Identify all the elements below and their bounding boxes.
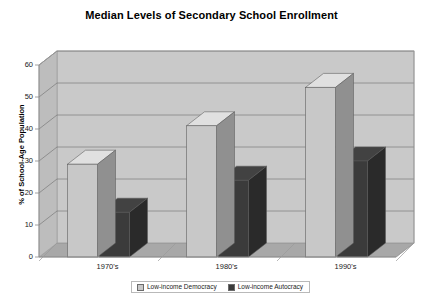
- legend-item-label: Low-income Democracy: [147, 283, 217, 291]
- chart-legend: Low-income DemocracyLow-income Autocracy: [131, 281, 310, 293]
- y-tick-label: 0: [11, 253, 33, 261]
- bar-1970s-democracy-front-face: [68, 164, 98, 257]
- bar-1970s-democracy-side-face: [98, 150, 116, 257]
- x-tick-label: 1970's: [73, 262, 143, 271]
- legend-item: Low-income Democracy: [137, 283, 217, 291]
- bar-1970s-democracy: [68, 150, 116, 257]
- bar-1980s-democracy-side-face: [217, 112, 235, 257]
- chart-container: Median Levels of Secondary School Enroll…: [0, 0, 423, 304]
- bar-1990s-democracy: [306, 73, 354, 257]
- y-tick-label: 60: [11, 61, 33, 69]
- y-tick-label: 10: [11, 221, 33, 229]
- x-tick-label: 1980's: [192, 262, 262, 271]
- legend-swatch-icon: [228, 284, 235, 291]
- y-tick-label: 20: [11, 189, 33, 197]
- plot-area: [0, 0, 423, 304]
- y-tick-label: 50: [11, 93, 33, 101]
- legend-item-label: Low-income Autocracy: [238, 283, 303, 291]
- bar-1980s-democracy-front-face: [187, 126, 217, 257]
- x-tick-label: 1990's: [311, 262, 381, 271]
- y-tick-label: 40: [11, 125, 33, 133]
- bar-1990s-democracy-front-face: [306, 87, 336, 257]
- bar-1990s-democracy-side-face: [336, 73, 354, 257]
- legend-swatch-icon: [137, 284, 144, 291]
- legend-item: Low-income Autocracy: [228, 283, 303, 291]
- bar-1990s-autocracy-side-face: [368, 147, 386, 257]
- bar-1980s-democracy: [187, 112, 235, 257]
- y-tick-label: 30: [11, 157, 33, 165]
- bar-1980s-autocracy-side-face: [249, 166, 267, 257]
